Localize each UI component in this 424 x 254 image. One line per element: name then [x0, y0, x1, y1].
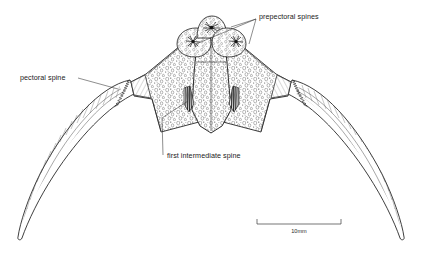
figure-canvas: prepectoral spines pectoral spine first …: [0, 0, 424, 254]
label-pectoral-spine: pectoral spine: [20, 73, 65, 82]
label-first-intermediate-spine: first intermediate spine: [167, 151, 241, 160]
illustration-svg: prepectoral spines pectoral spine first …: [0, 0, 424, 254]
prepectoral-lobe-right: [212, 28, 246, 57]
scale-bar-label: 10mm: [291, 228, 307, 234]
label-prepectoral-spines: prepectoral spines: [259, 12, 319, 21]
